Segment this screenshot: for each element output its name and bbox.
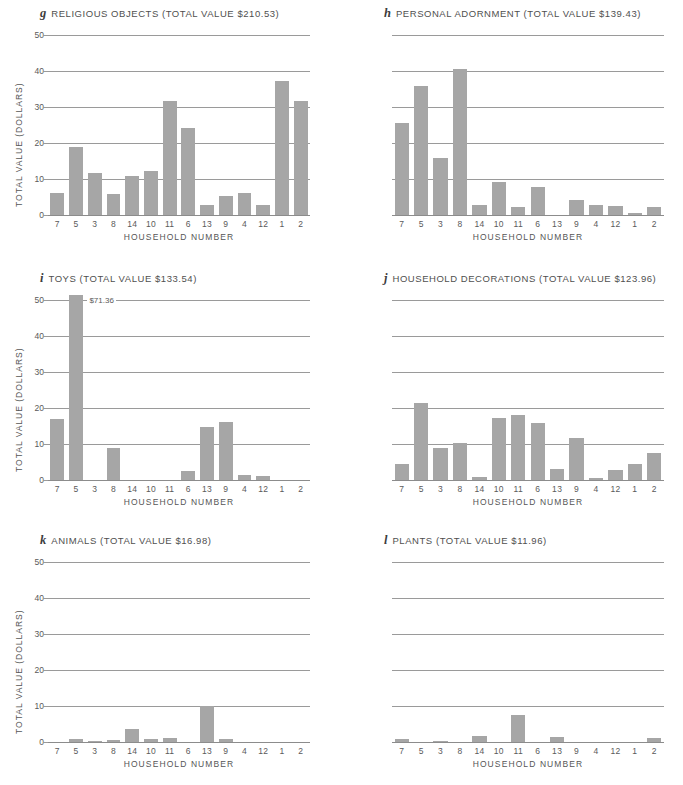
chart-panel-l: lPLANTS (TOTAL VALUE $11.96)753814101161… xyxy=(0,0,683,785)
bar xyxy=(395,739,409,742)
x-tick-label: 5 xyxy=(419,746,424,756)
x-tick-label: 11 xyxy=(514,746,523,756)
x-tick-label: 1 xyxy=(632,746,637,756)
x-axis-title: HOUSEHOLD NUMBER xyxy=(392,759,664,769)
bar xyxy=(433,741,447,742)
x-tick-label: 3 xyxy=(438,746,443,756)
panel-title-l: lPLANTS (TOTAL VALUE $11.96) xyxy=(384,533,547,548)
panel-title-text: PLANTS (TOTAL VALUE $11.96) xyxy=(392,535,546,546)
figure-panel-grid: gRELIGIOUS OBJECTS (TOTAL VALUE $210.53)… xyxy=(0,0,683,785)
x-tick-label: 2 xyxy=(652,746,657,756)
x-tick-label: 4 xyxy=(593,746,598,756)
bar-series xyxy=(392,562,664,742)
bar xyxy=(472,736,486,742)
panel-letter: l xyxy=(384,533,387,547)
x-tick-label: 7 xyxy=(399,746,404,756)
bar xyxy=(511,715,525,742)
plot-area-l: 7538141011613941212HOUSEHOLD NUMBER xyxy=(392,562,664,742)
x-axis-line xyxy=(392,742,664,743)
x-tick-label: 12 xyxy=(610,746,620,756)
x-tick-label: 9 xyxy=(574,746,579,756)
x-tick-label: 8 xyxy=(457,746,462,756)
x-tick-label: 6 xyxy=(535,746,540,756)
x-tick-label: 14 xyxy=(474,746,484,756)
x-tick-label: 13 xyxy=(552,746,562,756)
bar xyxy=(550,737,564,742)
bar xyxy=(647,738,661,742)
x-tick-label: 10 xyxy=(494,746,504,756)
